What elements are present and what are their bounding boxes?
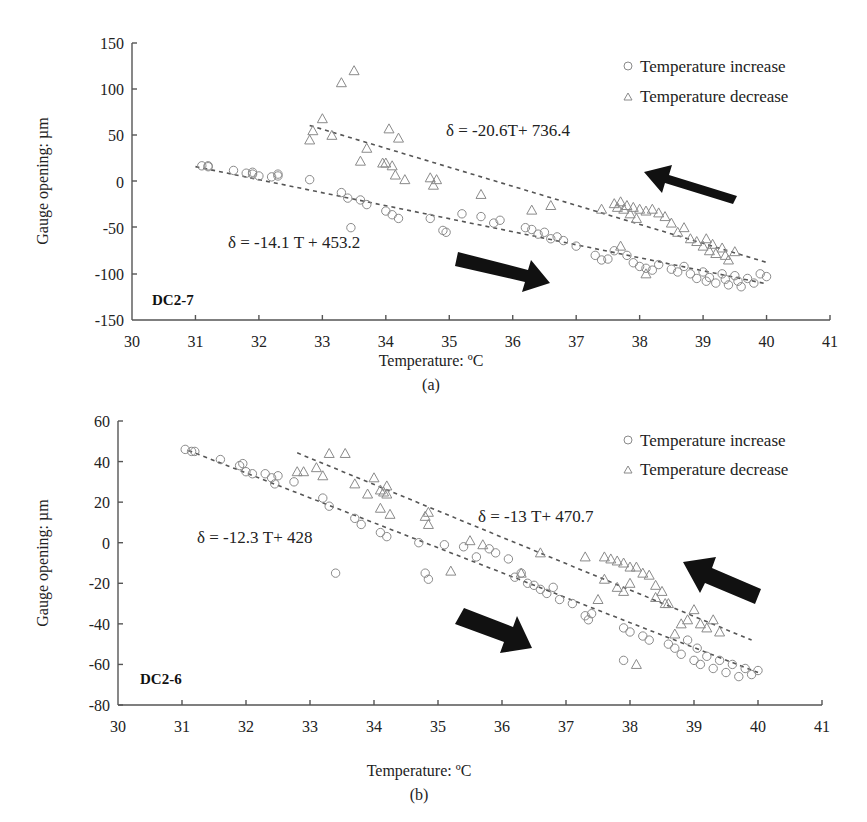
data-point-circle bbox=[442, 228, 450, 236]
equation-decrease-b: δ = -13 T+ 470.7 bbox=[478, 507, 594, 526]
data-point-triangle bbox=[612, 582, 622, 591]
data-point-circle bbox=[491, 549, 499, 557]
y-axis-title-b: Gauge opening: µm bbox=[34, 499, 52, 627]
x-tick-label: 36 bbox=[505, 333, 521, 350]
data-point-circle bbox=[735, 672, 743, 680]
trendlines-b bbox=[188, 450, 758, 672]
data-point-triangle bbox=[340, 448, 350, 457]
data-point-circle bbox=[363, 200, 371, 208]
data-point-circle bbox=[383, 532, 391, 540]
data-point-triangle bbox=[476, 189, 486, 198]
x-tick-labels-b: 303132333435363738394041 bbox=[110, 718, 830, 735]
x-tick-label: 32 bbox=[238, 718, 254, 735]
data-point-triangle bbox=[644, 570, 654, 579]
data-point-circle bbox=[572, 242, 580, 250]
data-point-circle bbox=[415, 539, 423, 547]
y-tick-label: 100 bbox=[100, 81, 124, 98]
x-axis-a: 303132333435363738394041 bbox=[124, 315, 838, 350]
data-point-circle bbox=[690, 656, 698, 664]
x-tick-label: 40 bbox=[759, 333, 775, 350]
x-tick-label: 31 bbox=[174, 718, 190, 735]
x-tick-label: 39 bbox=[695, 333, 711, 350]
x-tick-label: 39 bbox=[686, 718, 702, 735]
x-tick-label: 30 bbox=[110, 718, 126, 735]
legend-b: Temperature increase Temperature decreas… bbox=[624, 431, 788, 479]
y-tick-label: -150 bbox=[95, 312, 124, 329]
data-point-circle bbox=[703, 652, 711, 660]
data-point-circle bbox=[376, 528, 384, 536]
panel-label-a: DC2-7 bbox=[152, 292, 194, 308]
trendline bbox=[188, 450, 758, 672]
data-point-circle bbox=[626, 628, 634, 636]
data-point-circle bbox=[555, 595, 563, 603]
data-point-triangle bbox=[597, 204, 607, 213]
panel-label-b: DC2-6 bbox=[140, 671, 182, 687]
data-point-circle bbox=[394, 214, 402, 222]
data-point-circle bbox=[712, 279, 720, 287]
x-tick-label: 33 bbox=[314, 333, 330, 350]
data-point-triangle bbox=[730, 247, 740, 256]
data-point-triangle bbox=[350, 479, 360, 488]
y-tick-label: 60 bbox=[94, 413, 110, 430]
data-point-circle bbox=[754, 666, 762, 674]
arrow-right-icon bbox=[455, 252, 550, 292]
data-point-circle bbox=[629, 259, 637, 267]
x-tick-label: 38 bbox=[622, 718, 638, 735]
data-point-triangle bbox=[478, 540, 488, 549]
x-tick-label: 32 bbox=[251, 333, 267, 350]
x-tick-label: 41 bbox=[814, 718, 830, 735]
data-point-circle bbox=[331, 569, 339, 577]
x-tick-label: 33 bbox=[302, 718, 318, 735]
y-tick-label: 50 bbox=[108, 127, 124, 144]
data-point-triangle bbox=[384, 124, 394, 133]
x-tick-label: 36 bbox=[494, 718, 510, 735]
x-tick-label: 40 bbox=[750, 718, 766, 735]
data-point-triangle bbox=[546, 201, 556, 210]
data-point-triangle bbox=[311, 463, 321, 472]
figure: 150100500-50-100-150 3031323334353637383… bbox=[0, 0, 867, 822]
x-tick-label: 34 bbox=[378, 333, 394, 350]
data-point-circle bbox=[261, 470, 269, 478]
data-point-triangle bbox=[683, 615, 693, 624]
data-point-triangle bbox=[631, 659, 641, 668]
data-point-circle bbox=[439, 226, 447, 234]
data-point-circle bbox=[477, 212, 485, 220]
caption-b: (b) bbox=[410, 786, 429, 804]
data-point-circle bbox=[683, 636, 691, 644]
data-point-triangle bbox=[679, 223, 689, 232]
y-tick-labels-b: 6040200-20-40-60-80 bbox=[89, 413, 110, 714]
data-point-triangle bbox=[715, 627, 725, 636]
data-point-triangle bbox=[355, 156, 365, 165]
x-tick-label: 38 bbox=[632, 333, 648, 350]
x-tick-label: 41 bbox=[822, 333, 838, 350]
y-tick-label: -40 bbox=[89, 616, 110, 633]
trendline bbox=[297, 453, 751, 640]
data-point-circle bbox=[357, 520, 365, 528]
y-tick-label: 0 bbox=[102, 535, 110, 552]
y-tick-label: -80 bbox=[89, 697, 110, 714]
y-tick-labels-a: 150100500-50-100-150 bbox=[95, 35, 124, 329]
legend-a: Temperature increase Temperature decreas… bbox=[624, 57, 788, 106]
x-axis-title-a: Temperature: ºC bbox=[379, 352, 484, 370]
x-tick-label: 31 bbox=[187, 333, 203, 350]
chart-b: 6040200-20-40-60-80 30313233343536373839… bbox=[34, 413, 830, 804]
y-tick-label: 40 bbox=[94, 454, 110, 471]
data-point-circle bbox=[305, 175, 313, 183]
chart-a: 150100500-50-100-150 3031323334353637383… bbox=[34, 35, 838, 394]
data-point-triangle bbox=[369, 473, 379, 482]
legend-label-decrease-a: Temperature decrease bbox=[640, 87, 788, 106]
data-point-circle bbox=[536, 585, 544, 593]
data-point-circle bbox=[677, 650, 685, 658]
y-tick-label: 0 bbox=[116, 174, 124, 191]
data-point-circle bbox=[639, 632, 647, 640]
equation-decrease-a: δ = -20.6T+ 736.4 bbox=[446, 121, 570, 140]
data-point-circle bbox=[664, 640, 672, 648]
y-tick-label: -20 bbox=[89, 575, 110, 592]
data-point-circle bbox=[750, 279, 758, 287]
equation-increase-b: δ = -12.3 T+ 428 bbox=[197, 528, 312, 547]
data-point-circle bbox=[693, 274, 701, 282]
data-point-triangle bbox=[619, 558, 629, 567]
data-point-triangle bbox=[362, 143, 372, 152]
data-point-triangle bbox=[385, 509, 395, 518]
x-axis-title-b: Temperature: ºC bbox=[367, 762, 472, 780]
